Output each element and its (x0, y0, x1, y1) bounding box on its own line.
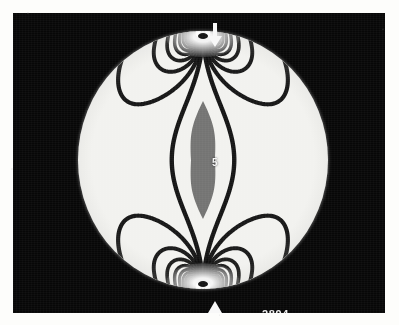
arrow-down-icon (204, 23, 226, 47)
plate-number-label: 2894 (262, 309, 289, 313)
scanned-page: 5 2894 (0, 0, 399, 325)
photograph-field: 5 2894 (13, 13, 385, 313)
contact-nub-bottom (198, 281, 208, 287)
photoelastic-disk-wrapper (78, 31, 328, 289)
photoelastic-disk (78, 31, 328, 289)
fringe-curves (118, 31, 288, 289)
fringe-order-label: 5 (212, 158, 218, 168)
isochromatic-fringe-pattern (78, 31, 328, 289)
arrow-up-icon (204, 301, 226, 313)
